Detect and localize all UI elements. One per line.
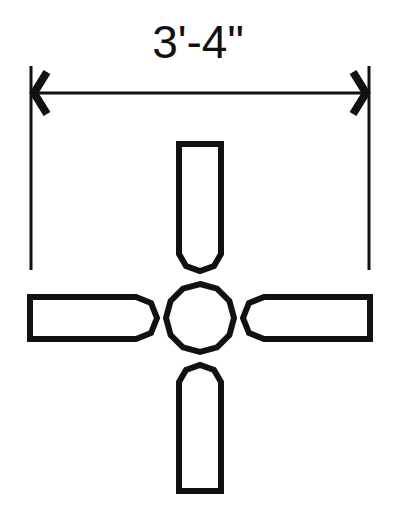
blade-bottom [179,365,221,491]
blade-left [30,297,157,339]
fan-plan-drawing [0,0,396,524]
fan-hub [166,284,234,352]
blade-right [243,297,370,339]
blade-top [179,144,221,271]
